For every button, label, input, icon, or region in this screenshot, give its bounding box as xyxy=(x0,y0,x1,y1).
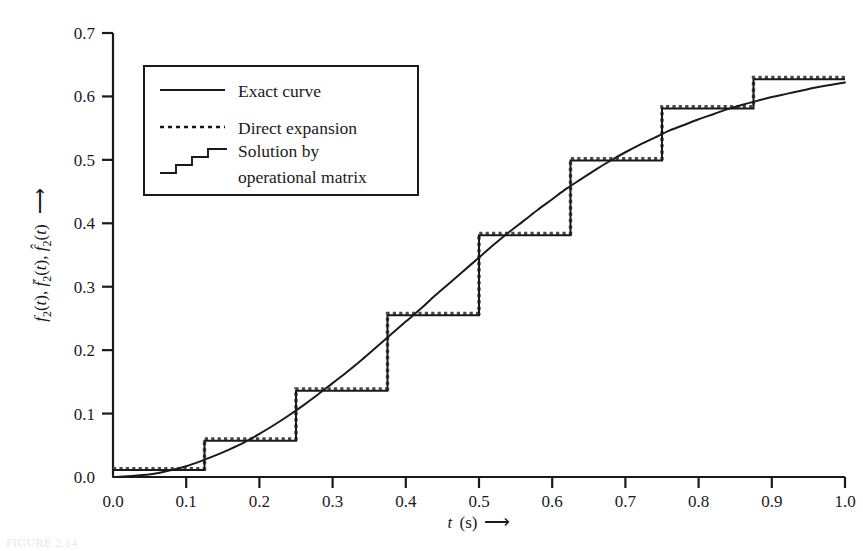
x-tick-label: 0.3 xyxy=(322,492,343,511)
figure-caption: FIGURE 2.14 xyxy=(6,536,78,551)
x-tick-label: 0.0 xyxy=(102,492,123,511)
legend-label-exact-curve: Exact curve xyxy=(238,81,321,101)
chart-figure: 0.00.10.20.30.40.50.60.7 0.00.10.20.30.4… xyxy=(0,0,863,551)
y-tick-label: 0.1 xyxy=(74,405,95,424)
x-tick-label: 0.9 xyxy=(761,492,782,511)
y-tick-label: 0.4 xyxy=(74,214,96,233)
y-tick-label: 0.0 xyxy=(74,468,95,487)
y-tick-label: 0.7 xyxy=(74,24,96,43)
y-tick-label: 0.3 xyxy=(74,278,95,297)
legend-label-operational-matrix-line2: operational matrix xyxy=(238,167,367,187)
y-tick-label: 0.5 xyxy=(74,151,95,170)
x-tick-label: 0.4 xyxy=(395,492,417,511)
y-tick-label: 0.6 xyxy=(74,87,95,106)
x-tick-label: 0.8 xyxy=(688,492,709,511)
y-tick-label: 0.2 xyxy=(74,341,95,360)
x-axis-title-arrow: ⟶ xyxy=(484,512,510,532)
x-tick-label: 0.2 xyxy=(249,492,270,511)
x-tick-label: 0.6 xyxy=(542,492,563,511)
x-tick-label: 0.1 xyxy=(176,492,197,511)
figure-background xyxy=(0,0,863,551)
x-tick-label: 0.7 xyxy=(615,492,637,511)
legend-label-direct-expansion: Direct expansion xyxy=(238,118,357,138)
x-tick-label: 0.5 xyxy=(468,492,489,511)
legend: Exact curve Direct expansion Solution by… xyxy=(144,66,418,195)
legend-label-operational-matrix-line1: Solution by xyxy=(238,141,319,161)
y-axis-title-arrow: ⟶ xyxy=(30,188,50,214)
x-tick-label: 1.0 xyxy=(834,492,855,511)
